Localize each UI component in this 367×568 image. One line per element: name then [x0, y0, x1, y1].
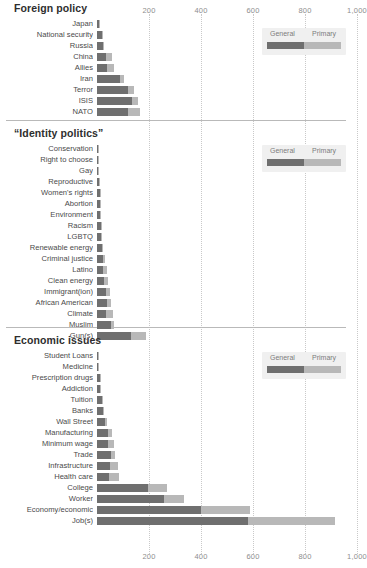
bar-row-label: Trade: [0, 449, 93, 460]
stacked-bar[interactable]: [97, 20, 99, 28]
bar-segment-general: [97, 288, 106, 296]
stacked-bar[interactable]: [97, 495, 184, 503]
bar-row-label: NATO: [0, 106, 93, 117]
bar-row[interactable]: Wall Street: [0, 416, 350, 427]
bar-row-label: African American: [0, 297, 93, 308]
stacked-bar[interactable]: [97, 42, 104, 50]
stacked-bar[interactable]: [97, 97, 138, 105]
bar-segment-primary: [148, 484, 167, 492]
stacked-bar[interactable]: [97, 145, 98, 153]
stacked-bar[interactable]: [97, 363, 99, 371]
bar-segment-general: [97, 97, 132, 105]
bar-row[interactable]: Renewable energy: [0, 242, 350, 253]
stacked-bar[interactable]: [97, 64, 114, 72]
bar-row[interactable]: Women's rights: [0, 187, 350, 198]
bar-row[interactable]: Minimum wage: [0, 438, 350, 449]
bar-segment-primary: [108, 429, 112, 437]
bar-row[interactable]: Health care: [0, 471, 350, 482]
stacked-bar[interactable]: [97, 418, 107, 426]
bar-segment-primary: [101, 222, 102, 230]
bar-row-label: Infrastructure: [0, 460, 93, 471]
bar-row[interactable]: Banks: [0, 405, 350, 416]
bar-row[interactable]: Abortion: [0, 198, 350, 209]
bar-row[interactable]: ISIS: [0, 95, 350, 106]
x-tick-label-1000: 1,000: [347, 552, 367, 561]
bar-row[interactable]: NATO: [0, 106, 350, 117]
stacked-bar[interactable]: [97, 396, 103, 404]
stacked-bar[interactable]: [97, 429, 112, 437]
bar-row[interactable]: Addiction: [0, 383, 350, 394]
bar-row[interactable]: LGBTQ: [0, 231, 350, 242]
stacked-bar[interactable]: [97, 31, 103, 39]
stacked-bar[interactable]: [97, 374, 101, 382]
stacked-bar[interactable]: [97, 473, 119, 481]
stacked-bar[interactable]: [97, 86, 134, 94]
bar-row[interactable]: Infrastructure: [0, 460, 350, 471]
stacked-bar[interactable]: [97, 156, 99, 164]
stacked-bar[interactable]: [97, 222, 102, 230]
stacked-bar[interactable]: [97, 277, 108, 285]
bar-row[interactable]: Terror: [0, 84, 350, 95]
stacked-bar[interactable]: [97, 178, 100, 186]
stacked-bar[interactable]: [97, 462, 118, 470]
bar-row[interactable]: Trade: [0, 449, 350, 460]
section-title-0: Foreign policy: [14, 2, 87, 14]
stacked-bar[interactable]: [97, 385, 101, 393]
stacked-bar[interactable]: [97, 108, 140, 116]
stacked-bar[interactable]: [97, 75, 124, 83]
stacked-bar[interactable]: [97, 299, 111, 307]
bar-segment-general: [97, 310, 106, 318]
bar-segment-general: [97, 429, 108, 437]
bar-row-label: College: [0, 482, 93, 493]
bar-segment-primary: [128, 108, 140, 116]
bar-row[interactable]: Racism: [0, 220, 350, 231]
stacked-bar[interactable]: [97, 440, 114, 448]
stacked-bar[interactable]: [97, 451, 115, 459]
stacked-bar[interactable]: [97, 506, 250, 514]
bar-row[interactable]: College: [0, 482, 350, 493]
stacked-bar[interactable]: [97, 167, 99, 175]
stacked-bar[interactable]: [97, 517, 335, 525]
bar-segment-general: [97, 64, 107, 72]
stacked-bar[interactable]: [97, 352, 99, 360]
stacked-bar[interactable]: [97, 255, 105, 263]
bar-row[interactable]: Muslim: [0, 319, 350, 330]
bar-row[interactable]: Worker: [0, 493, 350, 504]
bar-segment-general: [97, 418, 105, 426]
bar-row-label: Immigrant(ion): [0, 286, 93, 297]
bar-row[interactable]: Latino: [0, 264, 350, 275]
stacked-bar[interactable]: [97, 288, 110, 296]
stacked-bar[interactable]: [97, 233, 102, 241]
stacked-bar[interactable]: [97, 211, 101, 219]
bar-row[interactable]: Allies: [0, 62, 350, 73]
bar-row[interactable]: Criminal justice: [0, 253, 350, 264]
bar-row[interactable]: Reproductive: [0, 176, 350, 187]
stacked-bar[interactable]: [97, 310, 113, 318]
bar-row[interactable]: Tuition: [0, 394, 350, 405]
bar-row-label: Clean energy: [0, 275, 93, 286]
bar-row[interactable]: Climate: [0, 308, 350, 319]
bar-segment-general: [97, 517, 248, 525]
bar-row-label: Addiction: [0, 383, 93, 394]
stacked-bar[interactable]: [97, 189, 101, 197]
stacked-bar[interactable]: [97, 266, 107, 274]
stacked-bar[interactable]: [97, 244, 103, 252]
bar-row[interactable]: Environment: [0, 209, 350, 220]
bar-segment-primary: [106, 288, 110, 296]
stacked-bar[interactable]: [97, 332, 146, 340]
legend-swatches: [267, 42, 341, 49]
bar-segment-general: [97, 451, 111, 459]
bar-row[interactable]: African American: [0, 297, 350, 308]
stacked-bar[interactable]: [97, 484, 167, 492]
stacked-bar[interactable]: [97, 407, 104, 415]
bar-row[interactable]: Iran: [0, 73, 350, 84]
bar-row[interactable]: Job(s): [0, 515, 350, 526]
stacked-bar[interactable]: [97, 53, 112, 61]
stacked-bar[interactable]: [97, 321, 114, 329]
bar-row[interactable]: Immigrant(ion): [0, 286, 350, 297]
stacked-bar[interactable]: [97, 200, 101, 208]
bar-row[interactable]: Economy/economic: [0, 504, 350, 515]
bar-row[interactable]: Clean energy: [0, 275, 350, 286]
bar-row[interactable]: Manufacturing: [0, 427, 350, 438]
bar-segment-general: [97, 321, 111, 329]
